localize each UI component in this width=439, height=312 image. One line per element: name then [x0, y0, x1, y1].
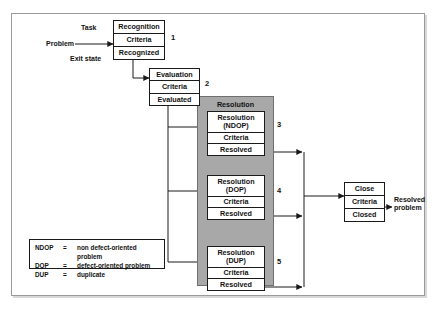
legend-definition-ndop: non defect-oriented problem	[77, 243, 159, 261]
state-cell-evaluation-name: Evaluation	[150, 69, 199, 81]
state-cell-ndop-exit: Resolved	[208, 144, 264, 155]
legend-abbr-ndop: NDOP	[35, 243, 63, 252]
state-box-recognition[interactable]: Recognition Criteria Recognized	[113, 20, 165, 60]
legend-equals-2: =	[63, 270, 77, 279]
state-cell-close-criteria: Criteria	[345, 196, 384, 209]
input-label-task: Task	[81, 24, 96, 32]
legend-row: NDOP = non defect-oriented problem	[35, 243, 159, 261]
input-label-exit-state: Exit state	[70, 55, 101, 63]
state-cell-evaluation-criteria: Criteria	[150, 81, 199, 93]
legend-abbr-dop: DOP	[35, 261, 63, 270]
legend: NDOP = non defect-oriented problem DOP =…	[29, 239, 165, 269]
state-cell-ndop-criteria: Criteria	[208, 133, 264, 145]
edge-recognition-to-evaluation	[133, 60, 149, 78]
state-box-evaluation[interactable]: Evaluation Criteria Evaluated	[149, 68, 200, 106]
state-cell-dop-criteria: Criteria	[208, 197, 264, 209]
state-cell-recognition-exit: Recognized	[114, 47, 164, 59]
resolution-group-title: Resolution	[198, 100, 273, 109]
output-label-resolved-problem: Resolved problem	[394, 196, 425, 212]
state-cell-ndop-name: Resolution (NDOP)	[208, 112, 264, 133]
legend-definition-dup: duplicate	[77, 270, 159, 279]
state-cell-dop-name: Resolution (DOP)	[208, 176, 264, 197]
legend-abbr-dup: DUP	[35, 270, 63, 279]
step-number-1: 1	[171, 33, 175, 42]
state-cell-recognition-criteria: Criteria	[114, 34, 164, 47]
state-cell-dup-exit: Resolved	[208, 279, 264, 290]
legend-definition-dop: defect-oriented problem	[77, 261, 159, 270]
step-number-4: 4	[277, 186, 281, 195]
state-cell-dup-criteria: Criteria	[208, 268, 264, 280]
diagram-canvas: Task Problem Exit state Resolution Recog…	[0, 0, 439, 312]
state-box-resolution-ndop[interactable]: Resolution (NDOP) Criteria Resolved	[207, 111, 265, 156]
legend-equals-1: =	[63, 261, 77, 270]
state-cell-dup-name: Resolution (DUP)	[208, 247, 264, 268]
state-cell-evaluation-exit: Evaluated	[150, 94, 199, 105]
state-cell-recognition-name: Recognition	[114, 21, 164, 34]
state-cell-close-name: Close	[345, 183, 384, 196]
state-cell-close-exit: Closed	[345, 209, 384, 221]
step-number-3: 3	[277, 120, 281, 129]
legend-row: DUP = duplicate	[35, 270, 159, 279]
state-box-resolution-dup[interactable]: Resolution (DUP) Criteria Resolved	[207, 246, 265, 291]
state-box-close[interactable]: Close Criteria Closed	[344, 182, 385, 222]
step-number-5: 5	[277, 257, 281, 266]
legend-row: DOP = defect-oriented problem	[35, 261, 159, 270]
input-label-problem: Problem	[46, 40, 74, 48]
step-number-2: 2	[205, 79, 209, 88]
legend-equals-0: =	[63, 243, 77, 252]
state-cell-dop-exit: Resolved	[208, 208, 264, 219]
state-box-resolution-dop[interactable]: Resolution (DOP) Criteria Resolved	[207, 175, 265, 220]
